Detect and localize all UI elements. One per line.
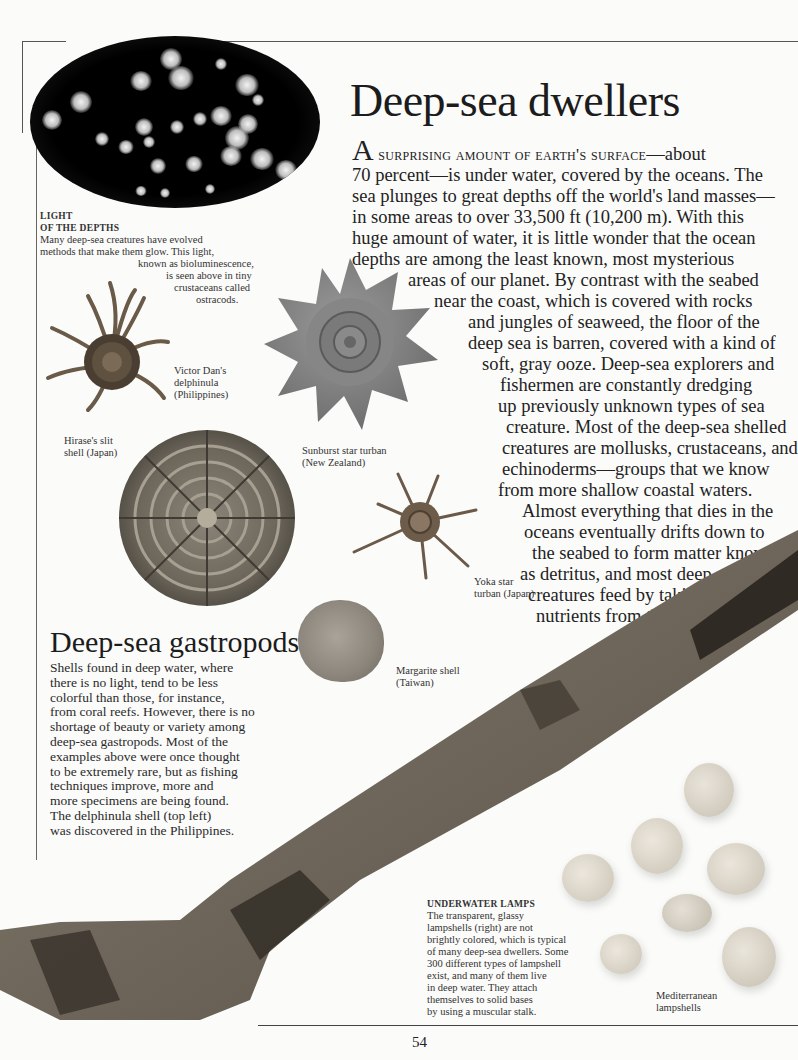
caption-heading: UNDERWATER LAMPS: [427, 898, 568, 910]
intro-line: creatures are mollusks, crustaceans, and: [352, 438, 792, 459]
caption-line: in deep water. They attach: [427, 982, 568, 994]
sunburst-label: Sunburst star turban (New Zealand): [302, 445, 387, 469]
intro-line: —about: [646, 144, 706, 164]
caption-line: Many deep-sea creatures have evolved: [40, 234, 254, 246]
intro-line: 70 percent—is under water, covered by th…: [352, 165, 792, 186]
stalk-photo: [0, 520, 798, 1030]
caption-line: themselves to solid bases: [427, 994, 568, 1006]
victor-dans-label: Victor Dan's delphinula (Philippines): [174, 365, 228, 401]
label-line: Mediterranean: [656, 990, 717, 1002]
caption-line: of many deep-sea dwellers. Some: [427, 946, 568, 958]
intro-line: in some areas to over 33,500 ft (10,200 …: [352, 207, 792, 228]
caption-line: methods that make them glow. This light,: [40, 246, 254, 258]
label-line: (New Zealand): [302, 457, 387, 469]
sunburst-star-turban-photo: [258, 250, 443, 440]
intro-line: sea plunges to great depths off the worl…: [352, 186, 792, 207]
caption-heading: OF THE DEPTHS: [40, 222, 254, 234]
frame-rule-left-top: [22, 41, 23, 133]
ostracods-glow-photo: [30, 36, 320, 208]
caption-line: 300 different types of lampshell: [427, 958, 568, 970]
label-line: Victor Dan's: [174, 365, 228, 377]
caption-line: exist, and many of them live: [427, 970, 568, 982]
caption-heading: LIGHT: [40, 210, 254, 222]
label-line: Hirase's slit: [64, 435, 117, 447]
label-line: delphinula: [174, 377, 228, 389]
label-line: (Philippines): [174, 389, 228, 401]
victor-dans-delphinula-photo: [40, 278, 180, 418]
underwater-lamps-caption: UNDERWATER LAMPS The transparent, glassy…: [427, 898, 568, 1018]
hirase-label: Hirase's slit shell (Japan): [64, 435, 117, 459]
intro-line: huge amount of water, it is little wonde…: [352, 228, 792, 249]
page-title: Deep-sea dwellers: [350, 74, 680, 127]
caption-line: by using a muscular stalk.: [427, 1006, 568, 1018]
caption-line: known as bioluminescence,: [40, 258, 254, 270]
label-line: lampshells: [656, 1002, 717, 1014]
caption-line: The transparent, glassy: [427, 910, 568, 922]
drop-cap: A: [352, 133, 374, 166]
label-line: Sunburst star turban: [302, 445, 387, 457]
caption-line: lampshells (right) are not: [427, 922, 568, 934]
frame-rule-top-right: [172, 41, 798, 42]
label-line: shell (Japan): [64, 447, 117, 459]
frame-rule-top-left: [22, 41, 66, 42]
lampshells-label: Mediterranean lampshells: [656, 990, 717, 1014]
lead-small-caps: surprising amount of earth's surface: [374, 145, 647, 164]
caption-line: brightly colored, which is typical: [427, 934, 568, 946]
page-number: 54: [412, 1034, 427, 1051]
